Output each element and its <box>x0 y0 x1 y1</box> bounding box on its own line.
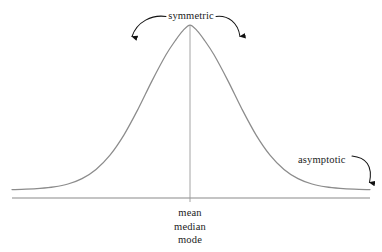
median-label: median <box>150 220 230 234</box>
asymptotic-arrow <box>352 156 370 183</box>
mean-label: mean <box>150 206 230 220</box>
center-measure-labels: mean median mode <box>150 206 230 247</box>
distribution-diagram: symmetric asymptotic mean median mode <box>0 0 382 252</box>
mode-label: mode <box>150 233 230 247</box>
symmetric-label: symmetric <box>0 9 382 22</box>
asymptotic-label: asymptotic <box>298 153 346 166</box>
